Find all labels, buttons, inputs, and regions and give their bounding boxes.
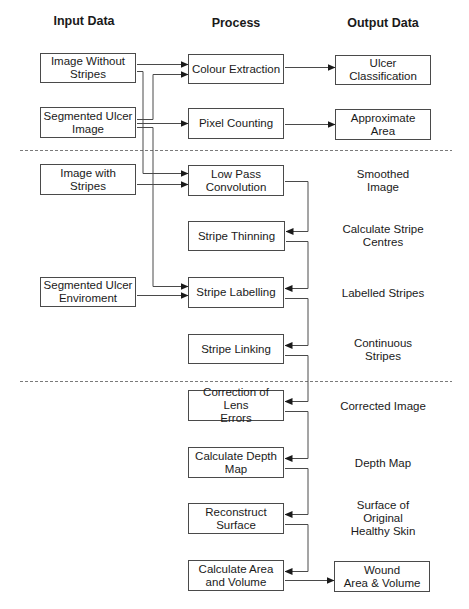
label-surface-of-original-healthy-skin: Surface of Original Healthy Skin (340, 499, 426, 538)
box-pixel-counting: Pixel Counting (188, 108, 284, 139)
connector-sui-to-labelling (137, 128, 188, 287)
label-labelled-stripes: Labelled Stripes (342, 287, 424, 300)
connector-sui-to-colour (137, 75, 188, 120)
connector-depth-to-reconstruct (285, 469, 308, 515)
header-process: Process (212, 16, 261, 30)
box-calculate-area-and-volume: Calculate Area and Volume (188, 560, 284, 591)
connector-labelling-to-linking (285, 299, 308, 346)
box-low-pass-convolution: Low Pass Convolution (188, 165, 284, 196)
flowchart-diagram: Input Data Process Output Data Image Wit… (0, 0, 469, 609)
label-calculate-stripe-centres: Calculate Stripe Centres (342, 223, 423, 249)
header-output: Output Data (347, 16, 419, 30)
label-smoothed-image: Smoothed Image (340, 168, 426, 194)
box-segmented-ulcer-image: Segmented Ulcer Image (40, 107, 136, 138)
box-stripe-linking: Stripe Linking (188, 334, 284, 364)
box-calculate-depth-map: Calculate Depth Map (188, 447, 284, 478)
connector-reconstruct-to-area (285, 525, 308, 572)
box-stripe-labelling: Stripe Labelling (188, 277, 284, 308)
connector-thinning-to-labelling (285, 242, 308, 289)
connector-linking-to-correction (285, 356, 308, 402)
box-wound-area-volume: Wound Area & Volume (334, 561, 430, 592)
box-approximate-area: Approximate Area (335, 109, 431, 140)
box-image-without-stripes: Image Without Stripes (40, 53, 136, 83)
box-image-with-stripes: Image with Stripes (40, 164, 136, 195)
box-stripe-thinning: Stripe Thinning (188, 221, 285, 251)
box-reconstruct-surface: Reconstruct Surface (188, 503, 284, 534)
label-continuous-stripes: Continuous Stripes (340, 337, 426, 363)
box-ulcer-classification: Ulcer Classification (335, 55, 431, 85)
box-correction-of-lens-errors: Correction of Lens Errors (188, 390, 284, 421)
box-segmented-ulcer-enviroment: Segmented Ulcer Enviroment (40, 277, 136, 307)
connector-lowpass-to-thinning (285, 182, 308, 232)
label-depth-map: Depth Map (355, 457, 411, 470)
connector-correction-to-depth (285, 412, 308, 459)
box-colour-extraction: Colour Extraction (188, 54, 284, 84)
header-input: Input Data (53, 14, 114, 28)
label-corrected-image: Corrected Image (340, 400, 426, 413)
connector-iws-to-lowpass (137, 72, 188, 174)
